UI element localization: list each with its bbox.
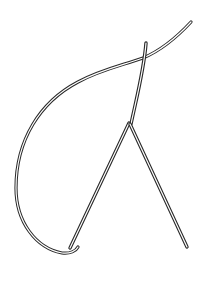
right-leg [130, 124, 187, 247]
needle-shaft [131, 43, 146, 124]
left-leg [70, 123, 129, 248]
drawing-canvas [0, 0, 203, 285]
needle-thread-drawing [0, 0, 203, 285]
thread-curve [16, 22, 191, 253]
